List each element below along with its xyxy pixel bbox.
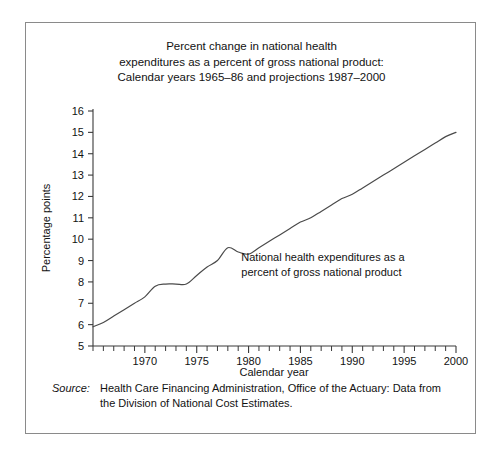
x-tick-label-1975: 1975 <box>184 355 208 367</box>
x-tick-label-1970: 1970 <box>133 355 157 367</box>
y-tick-label-5: 5 <box>78 340 84 352</box>
series-line-national-health-expenditures <box>93 132 456 326</box>
y-tick-label-9: 9 <box>78 255 84 267</box>
source-text: Health Care Financing Administration, Of… <box>100 381 452 411</box>
y-tick-label-11: 11 <box>73 212 84 224</box>
y-tick-label-12: 12 <box>72 190 84 202</box>
source-note: Source:Health Care Financing Administrat… <box>52 381 460 411</box>
x-axis-minor-ticks <box>93 346 446 351</box>
figure-frame: Percent change in national health expend… <box>25 22 476 434</box>
y-tick-label-7: 7 <box>78 297 84 309</box>
line-chart-plot: 5678910111213141516 19701975198019851990… <box>26 23 477 435</box>
y-tick-label-10: 10 <box>72 233 84 245</box>
y-tick-label-13: 13 <box>72 169 84 181</box>
y-axis-tick-labels: 5678910111213141516 <box>72 105 84 352</box>
series-annotation: National health expenditures as a percen… <box>241 251 405 278</box>
x-tick-label-1995: 1995 <box>392 355 416 367</box>
y-tick-label-16: 16 <box>72 105 84 117</box>
y-axis-ticks <box>88 111 93 346</box>
y-tick-label-6: 6 <box>78 319 84 331</box>
y-tick-label-8: 8 <box>78 276 84 288</box>
source-label: Source: <box>52 381 100 396</box>
y-tick-label-14: 14 <box>72 148 84 160</box>
series-annotation-line-1: National health expenditures as a <box>241 251 405 263</box>
y-tick-label-15: 15 <box>72 126 84 138</box>
axis-group <box>88 109 456 353</box>
series-annotation-line-2: percent of gross national product <box>241 266 401 278</box>
x-tick-label-1990: 1990 <box>340 355 364 367</box>
x-tick-label-2000: 2000 <box>444 355 468 367</box>
x-axis-major-ticks <box>145 346 456 353</box>
y-axis-title: Percentage points <box>40 183 52 272</box>
x-axis-title: Calendar year <box>239 366 308 378</box>
